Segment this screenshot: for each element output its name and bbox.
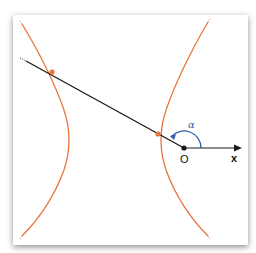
intersection-point-right <box>155 131 160 136</box>
angle-arc <box>171 131 201 148</box>
hyperbola-diagram <box>0 0 256 253</box>
origin-point <box>181 145 186 150</box>
hyperbola-left-branch <box>22 24 69 236</box>
x-axis-arrowhead <box>234 145 242 152</box>
origin-label: O <box>180 153 189 165</box>
angle-arrowhead-icon <box>170 135 176 141</box>
hyperbola-right-branch <box>161 22 208 236</box>
intersection-point-left <box>49 69 54 74</box>
angle-label: α <box>188 119 195 130</box>
x-axis-label: x <box>231 152 237 164</box>
